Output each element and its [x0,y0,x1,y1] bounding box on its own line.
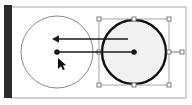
handle-top-right[interactable] [167,17,171,21]
canvas-drawing-surface[interactable] [0,0,192,105]
handle-top-center[interactable] [132,17,136,21]
selected-circle-center-dot [131,49,136,54]
ghost-circle-center-dot [54,49,59,54]
editor-canvas-root [0,0,192,105]
handle-middle-right[interactable] [167,50,171,54]
handle-bottom-left[interactable] [97,83,101,87]
handle-rotation-anchor[interactable] [180,50,184,54]
vertical-toolbar-strip[interactable] [4,5,12,98]
handle-bottom-right[interactable] [167,83,171,87]
handle-top-left[interactable] [97,17,101,21]
handle-bottom-center[interactable] [132,83,136,87]
